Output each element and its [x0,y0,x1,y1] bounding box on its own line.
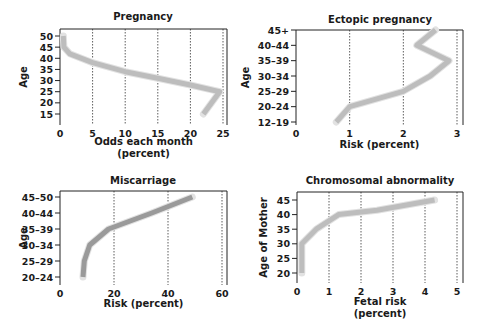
y-axis-label: Age of Mother [258,197,269,277]
chart-title: Ectopic pregnancy [328,14,432,25]
x-tick-label: 1 [346,128,353,139]
chart-ectopic-pregnancy: Ectopic pregnancy12–1920–2425–2930–3435–… [240,14,463,150]
x-axis-label: Odds each month [94,136,193,147]
y-tick-label: 20 [277,268,291,279]
chart-miscarriage: Miscarriage20–2425–2930–3435–3940–4445–5… [18,175,229,309]
x-tick-label: 60 [215,288,229,299]
x-tick-label: 25 [216,128,229,139]
y-tick-label: 20–24 [22,272,54,283]
y-tick-label: 20–24 [258,101,290,112]
y-tick-label: 45–50 [22,192,54,203]
y-axis-label: Age [18,227,29,249]
chart-title: Miscarriage [110,175,176,186]
x-axis-label-unit: (percent) [354,308,407,319]
series-line [83,197,192,277]
chart-chromosomal-abnormality: Chromosomal abnormality20253035404501234… [258,175,463,319]
y-tick-label: 40 [40,53,54,64]
y-tick-label: 35–39 [258,55,289,66]
y-tick-label: 30–34 [258,71,290,82]
x-axis-label: Risk (percent) [340,139,420,150]
y-axis-label: Age [240,66,251,88]
y-tick-label: 25–29 [22,256,53,267]
x-tick-label: 0 [294,286,301,297]
x-tick-label: 0 [57,128,64,139]
x-tick-label: 5 [454,286,461,297]
x-tick-label: 0 [57,288,64,299]
y-tick-label: 45 [40,42,53,53]
x-axis-label-unit: (percent) [117,148,170,159]
y-tick-label: 20 [40,97,54,108]
y-tick-label: 30 [277,238,291,249]
charts-canvas: Pregnancy15202530354045500510152025Odds … [0,0,478,336]
y-tick-label: 45 [277,195,290,206]
chart-title: Pregnancy [113,11,173,22]
series-line [63,36,219,114]
series-line [302,200,435,273]
x-tick-label: 2 [400,128,407,139]
x-tick-label: 1 [326,286,333,297]
x-axis-label: Fetal risk [354,296,407,307]
x-tick-label: 4 [422,286,429,297]
y-tick-label: 25 [40,86,53,97]
chart-pregnancy: Pregnancy15202530354045500510152025Odds … [18,11,230,159]
y-tick-label: 25–29 [258,86,289,97]
y-tick-label: 35 [277,224,290,235]
x-tick-label: 0 [293,128,300,139]
y-tick-label: 40–44 [258,40,290,51]
y-tick-label: 12–19 [258,117,289,128]
x-tick-label: 3 [454,128,461,139]
y-tick-label: 45+ [268,25,289,36]
y-tick-label: 30 [40,75,54,86]
y-tick-label: 50 [40,31,54,42]
chart-title: Chromosomal abnormality [306,175,455,186]
y-axis-label: Age [18,66,29,88]
y-tick-label: 35 [40,64,53,75]
plot-frame [297,192,463,283]
y-tick-label: 40 [277,209,291,220]
x-axis-label: Risk (percent) [104,298,184,309]
series-line [336,30,449,122]
y-tick-label: 25 [277,253,290,264]
plot-frame [296,30,463,125]
y-tick-label: 40–44 [22,208,54,219]
y-tick-label: 15 [40,109,53,120]
